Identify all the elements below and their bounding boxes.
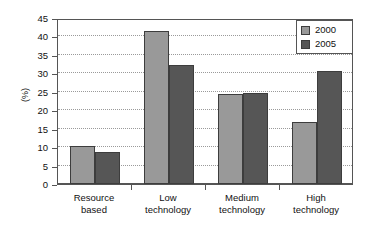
bar — [317, 71, 342, 184]
y-tick-label: 35 — [37, 50, 48, 61]
legend: 20002005 — [296, 20, 353, 54]
x-axis-category-label: Lowtechnology — [131, 192, 205, 216]
legend-swatch-icon — [301, 26, 310, 35]
y-tick-label: 10 — [37, 142, 48, 153]
legend-item: 2000 — [301, 23, 352, 37]
x-axis-labels: ResourcebasedLowtechnologyMediumtechnolo… — [57, 192, 353, 226]
x-axis-ticks — [57, 185, 353, 191]
y-tick-label: 25 — [37, 87, 48, 98]
bar-group — [132, 20, 206, 184]
x-tick-mark — [279, 185, 280, 190]
x-label-line-2: based — [57, 204, 131, 216]
x-label-line-1: High — [279, 192, 353, 204]
bar — [243, 93, 268, 184]
x-tick-mark — [205, 185, 206, 190]
y-tick-label: 20 — [37, 105, 48, 116]
y-axis-ticks: 051015202530354045 — [0, 19, 57, 185]
bar — [144, 31, 169, 184]
y-tick-label: 40 — [37, 31, 48, 42]
x-tick-mark — [131, 185, 132, 190]
bar — [218, 94, 243, 184]
x-label-line-2: technology — [279, 204, 353, 216]
bar-chart: (%) 051015202530354045 ResourcebasedLowt… — [0, 0, 370, 231]
bar — [169, 65, 194, 184]
x-label-line-2: technology — [131, 204, 205, 216]
y-tick-label: 30 — [37, 68, 48, 79]
bar-group — [58, 20, 132, 184]
legend-item: 2005 — [301, 37, 352, 51]
y-tick-label: 45 — [37, 13, 48, 24]
legend-label: 2000 — [315, 25, 336, 35]
y-tick-label: 15 — [37, 124, 48, 135]
x-label-line-1: Low — [131, 192, 205, 204]
x-axis-category-label: Hightechnology — [279, 192, 353, 216]
bar — [292, 122, 317, 184]
bar — [70, 146, 95, 184]
y-tick-label: 0 — [43, 179, 48, 190]
x-label-line-2: technology — [205, 204, 279, 216]
y-tick-label: 5 — [43, 161, 48, 172]
bar — [95, 152, 120, 184]
legend-swatch-icon — [301, 40, 310, 49]
x-axis-category-label: Mediumtechnology — [205, 192, 279, 216]
x-axis-category-label: Resourcebased — [57, 192, 131, 216]
bar-group — [206, 20, 280, 184]
x-label-line-1: Medium — [205, 192, 279, 204]
legend-label: 2005 — [315, 39, 336, 49]
x-label-line-1: Resource — [57, 192, 131, 204]
